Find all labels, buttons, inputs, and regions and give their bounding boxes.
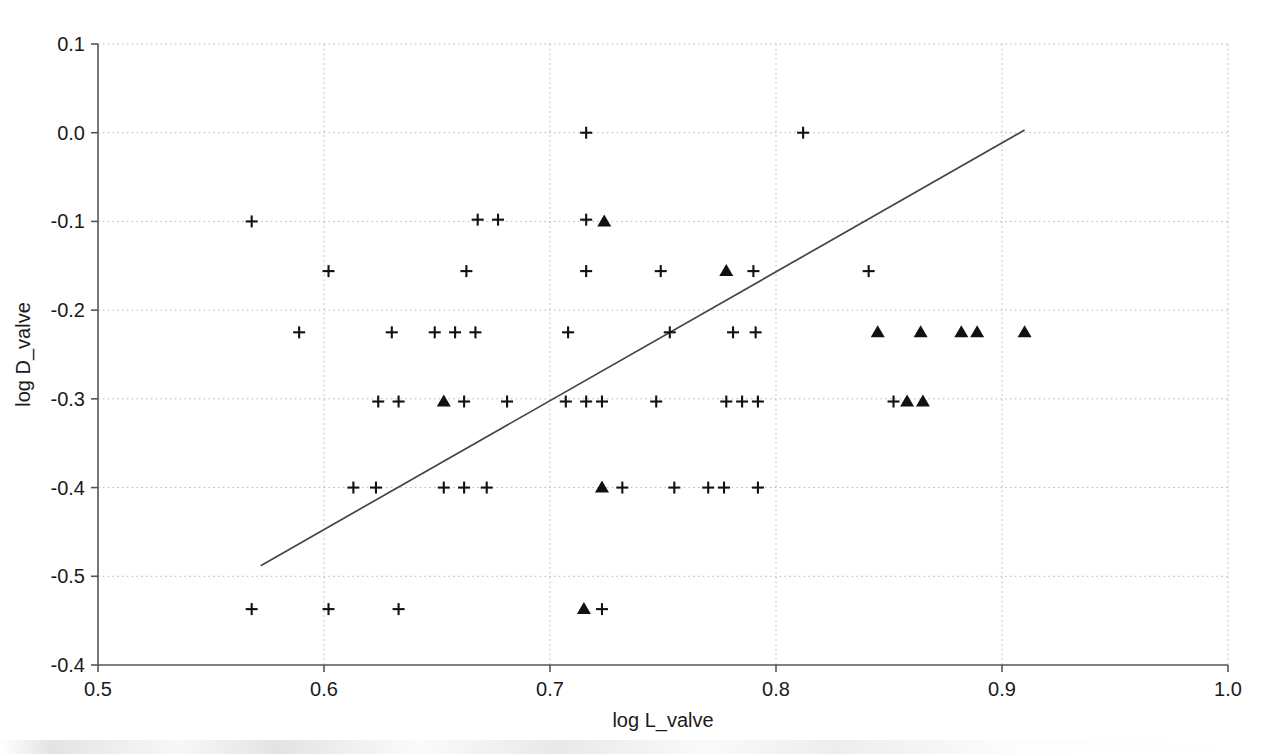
data-point-cross xyxy=(501,396,513,408)
data-point-cross xyxy=(655,265,667,277)
data-point-cross xyxy=(347,482,359,494)
data-point-cross xyxy=(458,396,470,408)
data-point-cross xyxy=(386,326,398,338)
data-point-cross xyxy=(668,482,680,494)
data-point-cross xyxy=(469,326,481,338)
data-point-cross xyxy=(393,396,405,408)
data-point-cross xyxy=(580,127,592,139)
regression-line xyxy=(261,130,1025,566)
data-point-triangle xyxy=(871,325,885,337)
data-point-cross xyxy=(293,326,305,338)
y-tick-label: -0.4 xyxy=(51,654,85,676)
data-point-triangle xyxy=(914,325,928,337)
data-point-cross xyxy=(562,326,574,338)
data-point-triangle xyxy=(954,325,968,337)
data-point-triangle xyxy=(1018,325,1032,337)
data-point-cross xyxy=(246,603,258,615)
data-point-cross xyxy=(560,396,572,408)
x-tick-label: 0.7 xyxy=(536,678,564,700)
data-point-cross xyxy=(752,482,764,494)
data-point-cross xyxy=(393,603,405,615)
data-point-cross xyxy=(492,214,504,226)
data-point-cross xyxy=(460,265,472,277)
data-point-cross xyxy=(727,326,739,338)
data-point-cross xyxy=(650,396,662,408)
data-point-cross xyxy=(372,396,384,408)
data-point-cross xyxy=(580,396,592,408)
data-point-cross xyxy=(429,326,441,338)
data-point-triangle xyxy=(719,264,733,276)
y-tick-label: -0.4 xyxy=(51,477,85,499)
data-point-cross xyxy=(752,396,764,408)
data-point-cross xyxy=(438,482,450,494)
data-point-cross xyxy=(370,482,382,494)
data-point-triangle xyxy=(916,395,930,407)
x-tick-label: 0.5 xyxy=(84,678,112,700)
data-point-triangle xyxy=(437,395,451,407)
data-point-cross xyxy=(616,482,628,494)
data-point-cross xyxy=(596,396,608,408)
data-point-triangle xyxy=(595,481,609,493)
data-point-cross xyxy=(797,127,809,139)
data-point-cross xyxy=(323,603,335,615)
data-point-cross xyxy=(472,214,484,226)
data-point-cross xyxy=(449,326,461,338)
y-tick-label: -0.2 xyxy=(51,299,85,321)
data-point-cross xyxy=(863,265,875,277)
data-point-cross xyxy=(747,265,759,277)
data-point-cross xyxy=(702,482,714,494)
x-tick-label: 1.0 xyxy=(1214,678,1242,700)
y-tick-label: -0.5 xyxy=(51,565,85,587)
data-point-cross xyxy=(246,215,258,227)
data-point-cross xyxy=(664,326,676,338)
scatter-plot: 0.10.0-0.1-0.2-0.3-0.4-0.5-0.40.50.60.70… xyxy=(0,0,1266,754)
data-point-cross xyxy=(580,214,592,226)
x-tick-label: 0.8 xyxy=(762,678,790,700)
data-point-cross xyxy=(736,396,748,408)
chart-page: 0.10.0-0.1-0.2-0.3-0.4-0.5-0.40.50.60.70… xyxy=(0,0,1266,754)
data-point-triangle xyxy=(900,395,914,407)
x-tick-label: 0.9 xyxy=(988,678,1016,700)
data-point-triangle xyxy=(970,325,984,337)
data-point-cross xyxy=(481,482,493,494)
data-point-triangle xyxy=(577,602,591,614)
data-point-cross xyxy=(458,482,470,494)
data-point-cross xyxy=(580,265,592,277)
data-point-cross xyxy=(750,326,762,338)
y-tick-label: -0.3 xyxy=(51,388,85,410)
data-point-cross xyxy=(720,396,732,408)
data-point-triangle xyxy=(597,214,611,226)
y-tick-label: 0.1 xyxy=(57,33,85,55)
y-tick-label: -0.1 xyxy=(51,210,85,232)
data-point-cross xyxy=(888,396,900,408)
y-tick-label: 0.0 xyxy=(57,122,85,144)
data-point-cross xyxy=(596,603,608,615)
data-point-cross xyxy=(718,482,730,494)
y-axis-title: log D_valve xyxy=(12,302,35,407)
x-axis-title: log L_valve xyxy=(612,709,713,732)
x-tick-label: 0.6 xyxy=(310,678,338,700)
